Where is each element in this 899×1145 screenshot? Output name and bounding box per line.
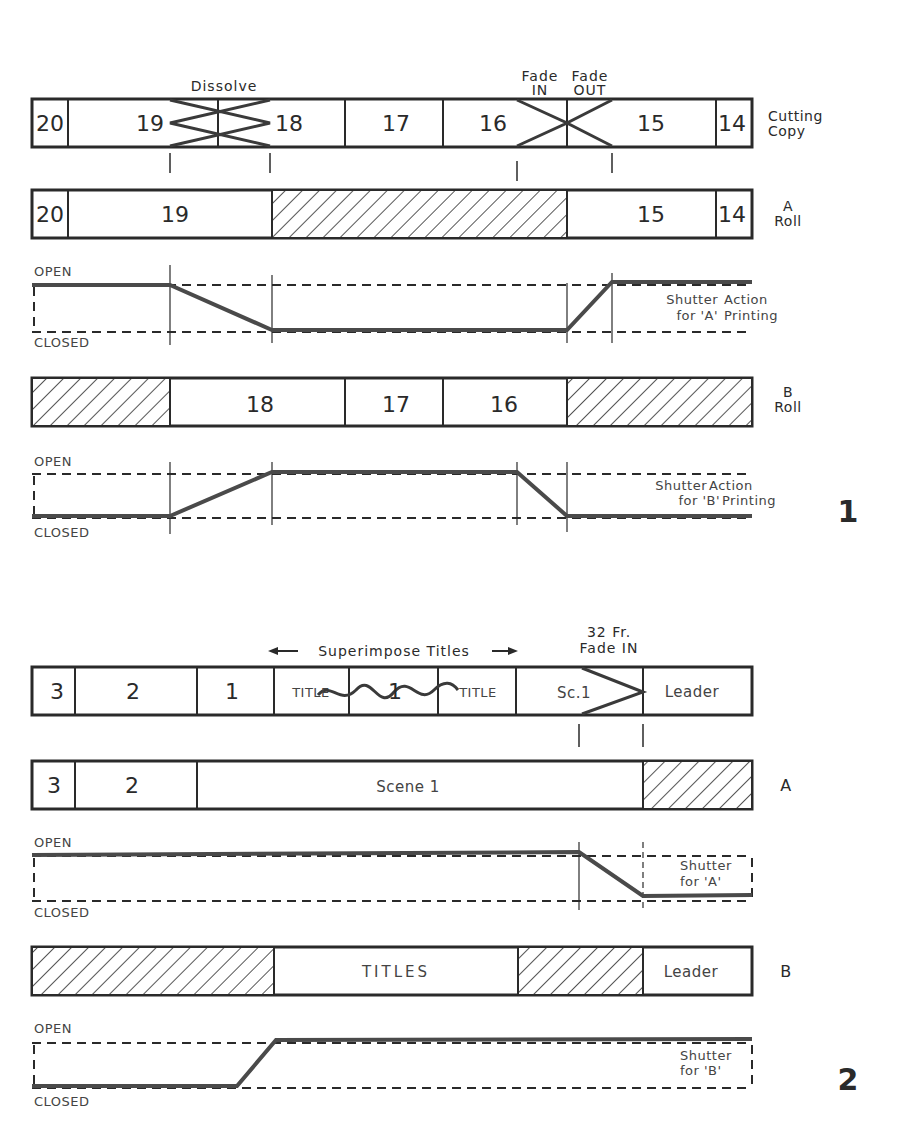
- cell-16: 16: [490, 392, 518, 417]
- b-roll-strip-2: TITLES Leader: [32, 947, 752, 995]
- a-shutter-graph-2: OPEN CLOSED Shutter for 'A': [32, 835, 752, 920]
- shutter-label-2: Action: [709, 478, 753, 493]
- open-label: OPEN: [34, 264, 72, 279]
- cell-2: 2: [126, 679, 140, 704]
- a-roll-strip-2: 3 2 Scene 1: [32, 761, 752, 809]
- figure-number-1: 1: [838, 494, 859, 529]
- shutter-label-3: for 'A': [676, 308, 718, 323]
- cell-14: 14: [718, 111, 746, 136]
- shutter-curve: [32, 852, 752, 896]
- black-leader-hatch: [33, 379, 170, 425]
- fade-out-label-2: OUT: [574, 82, 607, 98]
- cell-scene-1: Sc.1: [557, 684, 591, 702]
- figure-2: Superimpose Titles 32 Fr. Fade IN 3 2 1 …: [32, 624, 858, 1109]
- a-roll-label: A: [780, 776, 791, 795]
- fade-in-label: Fade IN: [580, 640, 639, 656]
- b-roll-label: B: [780, 962, 791, 981]
- cell-leader: Leader: [664, 963, 719, 981]
- a-roll-label: A: [783, 198, 793, 214]
- shutter-label-2: for 'A': [680, 874, 722, 889]
- open-label: OPEN: [34, 1021, 72, 1036]
- a-roll-label-2: Roll: [774, 213, 801, 229]
- cell-15: 15: [637, 202, 665, 227]
- open-label: OPEN: [34, 835, 72, 850]
- shutter-label-4: Printing: [722, 493, 776, 508]
- b-roll-label-2: Roll: [774, 399, 801, 415]
- cell-title: TITLE: [291, 685, 330, 700]
- shutter-curve: [32, 282, 752, 330]
- black-leader-hatch: [643, 762, 751, 808]
- shutter-label-1: Shutter: [666, 292, 718, 307]
- cell-title-2: TITLE: [458, 685, 497, 700]
- dissolve-label: Dissolve: [191, 78, 258, 94]
- black-leader-hatch: [518, 948, 643, 994]
- cell-14: 14: [718, 202, 746, 227]
- shutter-curve: [32, 1039, 752, 1086]
- cell-3: 3: [47, 773, 61, 798]
- cell-2: 2: [125, 773, 139, 798]
- shutter-label-2: for 'B': [680, 1063, 722, 1078]
- ab-roll-diagram: Dissolve Fade IN Fade OUT 20 19 18 17 16…: [0, 0, 899, 1145]
- cell-19: 19: [136, 111, 164, 136]
- cell-1: 1: [225, 679, 239, 704]
- cell-18: 18: [275, 111, 303, 136]
- closed-label: CLOSED: [34, 905, 90, 920]
- closed-label: CLOSED: [34, 1094, 90, 1109]
- b-shutter-graph-2: OPEN CLOSED Shutter for 'B': [32, 1021, 752, 1109]
- black-leader-hatch: [567, 379, 751, 425]
- closed-label: CLOSED: [34, 335, 90, 350]
- cell-leader: Leader: [665, 683, 720, 701]
- cutting-copy-strip: 20 19 18 17 16 15 14: [32, 99, 752, 147]
- cell-3: 3: [50, 679, 64, 704]
- cell-titles: TITLES: [361, 963, 430, 981]
- b-roll-strip-1: 18 17 16: [32, 378, 752, 426]
- a-shutter-graph: OPEN CLOSED Shutter Action for 'A' Print…: [32, 264, 778, 350]
- cell-scene-1: Scene 1: [376, 778, 440, 796]
- black-leader-hatch: [272, 191, 567, 237]
- cell-19: 19: [161, 202, 189, 227]
- superimpose-label: Superimpose Titles: [318, 643, 470, 659]
- b-roll-label: B: [783, 384, 793, 400]
- closed-label: CLOSED: [34, 525, 90, 540]
- shutter-label-1: Shutter: [680, 858, 732, 873]
- cutting-copy-label-2: Copy: [768, 123, 806, 139]
- fade-in-label-2: IN: [532, 82, 549, 98]
- shutter-curve: [32, 472, 752, 516]
- shutter-label-3: for 'B': [678, 493, 720, 508]
- open-label: OPEN: [34, 454, 72, 469]
- cell-20: 20: [36, 111, 64, 136]
- b-shutter-graph: OPEN CLOSED Shutter Action for 'B' Print…: [32, 454, 776, 540]
- shutter-label-2: Action: [724, 292, 768, 307]
- cell-17: 17: [382, 392, 410, 417]
- cutting-copy-label-1: Cutting: [768, 108, 823, 124]
- fade-frames-label: 32 Fr.: [587, 624, 631, 640]
- cutting-copy-strip-2: 3 2 1 TITLE 1 TITLE Sc.1 Leader: [32, 667, 752, 715]
- figure-number-2: 2: [838, 1062, 859, 1097]
- shutter-label-1: Shutter: [680, 1048, 732, 1063]
- arrow-right-icon: [508, 647, 518, 655]
- cell-15: 15: [637, 111, 665, 136]
- cell-1b: 1: [388, 679, 402, 704]
- black-leader-hatch: [33, 948, 274, 994]
- figure-1: Dissolve Fade IN Fade OUT 20 19 18 17 16…: [32, 68, 858, 540]
- a-roll-strip-1: 20 19 15 14: [32, 190, 752, 238]
- cell-17: 17: [382, 111, 410, 136]
- cell-18: 18: [246, 392, 274, 417]
- cell-20: 20: [36, 202, 64, 227]
- cell-16: 16: [479, 111, 507, 136]
- shutter-label-1: Shutter: [655, 478, 707, 493]
- superimpose-annotation: Superimpose Titles: [268, 643, 518, 659]
- shutter-label-4: Printing: [724, 308, 778, 323]
